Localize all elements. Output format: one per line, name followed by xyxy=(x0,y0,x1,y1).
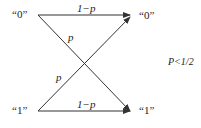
input-1-label: “1” xyxy=(12,105,27,116)
output-0-label: “0” xyxy=(139,10,154,21)
edge-1-to-1-label: 1−p xyxy=(77,99,95,110)
edge-1-to-0-label: p xyxy=(56,72,62,83)
output-1-label: “1” xyxy=(139,105,154,116)
input-0-label: “0” xyxy=(12,9,27,20)
condition-label: P<1/2 xyxy=(168,56,194,67)
edge-0-to-1-label: p xyxy=(68,32,74,43)
edge-0-to-0-label: 1−p xyxy=(77,3,95,14)
